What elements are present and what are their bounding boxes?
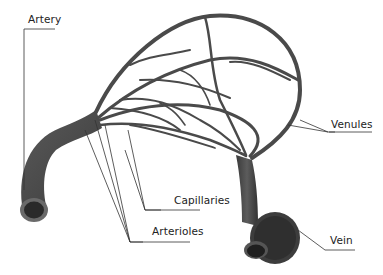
label-venules: Venules xyxy=(331,118,373,130)
label-vein: Vein xyxy=(330,234,353,246)
leader-arterioles-b xyxy=(95,120,130,242)
leader-capillaries-b xyxy=(128,130,145,210)
artery-vessel xyxy=(20,110,102,222)
label-capillaries: Capillaries xyxy=(174,194,230,206)
label-artery: Artery xyxy=(28,13,61,25)
vessel-diagram: Artery Venules Capillaries Arterioles Ve… xyxy=(0,0,383,275)
label-arterioles: Arterioles xyxy=(152,225,204,237)
vein-vessel xyxy=(236,155,300,264)
vessel-network xyxy=(96,16,300,158)
leader-arterioles-c xyxy=(105,125,130,242)
leader-venules-b xyxy=(288,125,328,132)
